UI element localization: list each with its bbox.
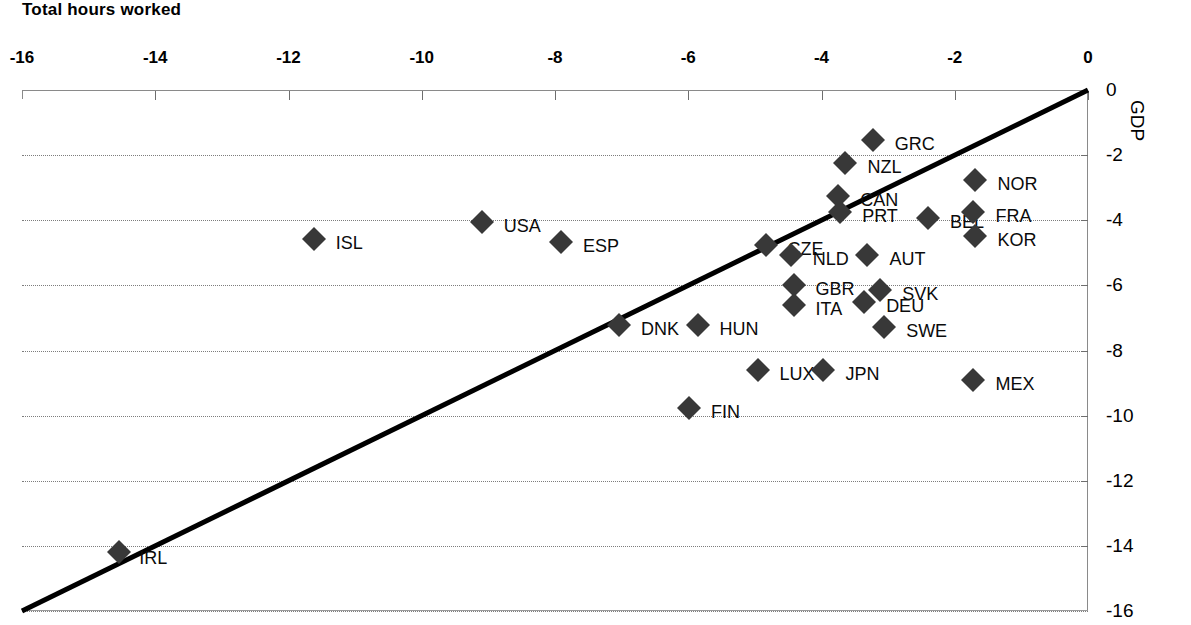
data-point-label: USA: [504, 215, 541, 236]
data-point-label: GRC: [895, 134, 935, 155]
scatter-chart: Total hours worked GDP GRCNZLNORCANPRTBE…: [0, 0, 1191, 625]
trend-line: [22, 90, 1088, 611]
data-point-label: DNK: [641, 319, 679, 340]
x-axis-title: Total hours worked: [22, 0, 181, 20]
data-point-label: JPN: [845, 364, 879, 385]
y-tick-label: 0: [1106, 79, 1117, 101]
data-point-label: SWE: [906, 321, 947, 342]
x-tick-label: -8: [547, 48, 562, 68]
data-point-label: DEU: [886, 295, 924, 316]
data-point-label: ESP: [583, 236, 619, 257]
gridline: [22, 611, 1088, 612]
y-tick-label: -10: [1106, 405, 1133, 427]
y-tick-label: -14: [1106, 535, 1133, 557]
y-tick-label: -8: [1106, 340, 1123, 362]
x-tick-label: -12: [276, 48, 301, 68]
data-point-label: NZL: [867, 156, 901, 177]
data-point-label: GBR: [816, 279, 855, 300]
data-point-label: ISL: [336, 233, 363, 254]
y-tick-label: -12: [1106, 470, 1133, 492]
data-point-label: IRL: [139, 548, 167, 569]
x-tick-label: -10: [409, 48, 434, 68]
data-point-label: NLD: [813, 249, 849, 270]
x-tick-label: -4: [814, 48, 829, 68]
y-tick-label: -16: [1106, 600, 1133, 622]
data-point-label: HUN: [720, 319, 759, 340]
y-axis-title: GDP: [1126, 100, 1148, 141]
data-point-label: LUX: [780, 364, 815, 385]
y-tick-label: -2: [1106, 144, 1123, 166]
plot-area: GRCNZLNORCANPRTBELFRAKORISLUSAESPCZENLDA…: [22, 90, 1088, 611]
x-tick-label: -6: [681, 48, 696, 68]
x-tick-label: -16: [10, 48, 35, 68]
data-point-label: ITA: [816, 298, 843, 319]
data-point-label: FRA: [995, 206, 1031, 227]
y-tick-label: -4: [1106, 209, 1123, 231]
data-point-label: MEX: [995, 374, 1034, 395]
y-tick-label: -6: [1106, 274, 1123, 296]
data-point-label: FIN: [711, 402, 740, 423]
data-point-label: KOR: [997, 229, 1036, 250]
data-point-label: NOR: [997, 173, 1037, 194]
x-tick-label: 0: [1083, 48, 1092, 68]
data-point-label: AUT: [889, 249, 925, 270]
data-point-label: PRT: [862, 206, 898, 227]
x-tick-label: -2: [947, 48, 962, 68]
x-tick-label: -14: [143, 48, 168, 68]
